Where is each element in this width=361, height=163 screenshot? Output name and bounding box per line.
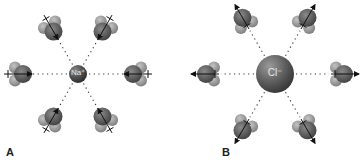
water-molecule bbox=[84, 15, 119, 64]
hydration-bond-line bbox=[286, 92, 301, 117]
hydration-bond-line bbox=[84, 39, 99, 64]
hydration-bond-line bbox=[58, 84, 73, 109]
hydration-bond-line bbox=[58, 39, 73, 64]
water-molecule bbox=[296, 62, 359, 87]
water-molecule bbox=[38, 15, 73, 64]
water-molecule bbox=[89, 62, 152, 87]
water-molecule bbox=[84, 84, 119, 133]
hydration-diagram bbox=[0, 0, 361, 163]
water-molecule bbox=[234, 92, 265, 143]
hydration-bond-line bbox=[286, 31, 301, 56]
water-molecule bbox=[191, 62, 254, 87]
water-molecule bbox=[4, 62, 67, 87]
water-molecule bbox=[286, 92, 317, 143]
water-molecule bbox=[286, 5, 317, 56]
panel-label-a: A bbox=[6, 146, 14, 158]
panel-label-b: B bbox=[222, 146, 230, 158]
dipole-plus-crossbar bbox=[43, 127, 50, 131]
sodium-ion-label: Na⁺ bbox=[68, 68, 88, 77]
hydration-bond-line bbox=[250, 92, 265, 117]
hydration-bond-line bbox=[84, 84, 99, 109]
dipole-plus-crossbar bbox=[107, 127, 114, 131]
chloride-ion-label: Cl⁻ bbox=[261, 67, 289, 78]
water-molecule bbox=[38, 84, 73, 133]
dipole-plus-crossbar bbox=[107, 17, 114, 21]
water-molecule bbox=[234, 5, 265, 56]
dipole-plus-crossbar bbox=[43, 17, 50, 21]
hydration-bond-line bbox=[250, 31, 265, 56]
